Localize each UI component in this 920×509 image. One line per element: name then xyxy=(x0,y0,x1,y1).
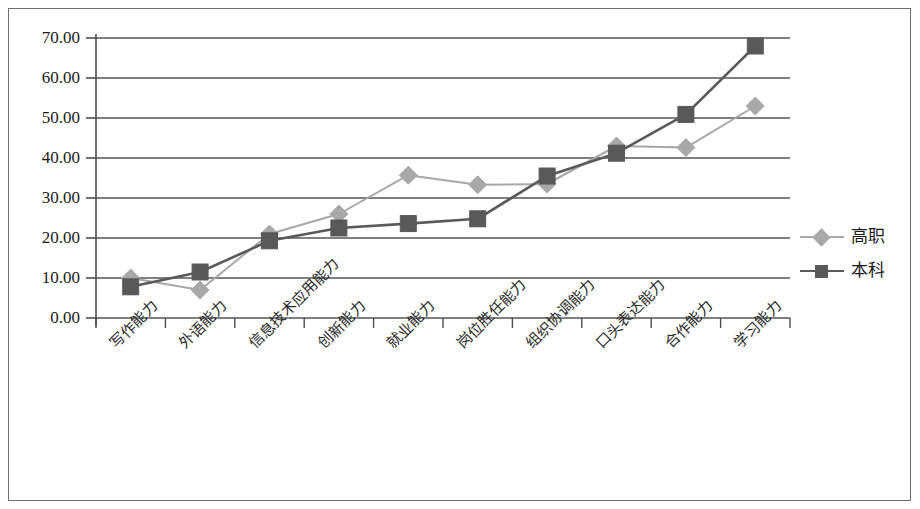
legend-label: 本科 xyxy=(851,262,885,279)
y-axis-tick-label: 70.00 xyxy=(4,29,80,46)
y-axis-tick-label: 10.00 xyxy=(4,269,80,286)
y-axis-tick-label: 60.00 xyxy=(4,69,80,86)
legend-item-gaozhi[interactable]: 高职 xyxy=(800,228,885,245)
y-axis-tick-label: 30.00 xyxy=(4,189,80,206)
legend-key xyxy=(800,263,844,279)
legend-item-benke[interactable]: 本科 xyxy=(800,262,885,279)
chart-plot-area xyxy=(0,0,920,509)
y-axis-tick-label: 50.00 xyxy=(4,109,80,126)
legend-key xyxy=(800,229,844,245)
y-axis-tick-label: 20.00 xyxy=(4,229,80,246)
y-axis-tick-label: 0.00 xyxy=(4,309,80,326)
y-axis-tick-label: 40.00 xyxy=(4,149,80,166)
diamond-marker-icon xyxy=(812,228,830,246)
chart-legend: 高职本科 xyxy=(800,228,885,279)
legend-label: 高职 xyxy=(851,228,885,245)
axis-lines xyxy=(86,34,96,326)
square-marker-icon xyxy=(815,265,828,278)
chart-container: 70.0060.0050.0040.0030.0020.0010.000.00 … xyxy=(0,0,920,509)
data-series-layer xyxy=(122,38,765,299)
